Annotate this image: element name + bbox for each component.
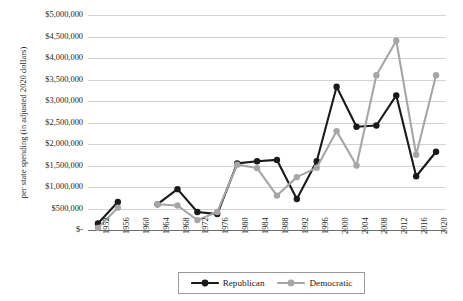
x-tick-label: 1972 — [201, 194, 210, 234]
legend-item-democratic[interactable]: Democratic — [277, 274, 352, 292]
x-tick-label: 1996 — [321, 194, 330, 234]
x-tick-label: 1952 — [102, 194, 111, 234]
legend-label: Democratic — [309, 278, 352, 288]
chart-legend: RepublicanDemocratic — [178, 272, 365, 294]
x-tick-label: 1960 — [142, 194, 151, 234]
x-tick-label: 1956 — [122, 194, 131, 234]
legend-marker-icon — [277, 274, 305, 292]
x-tick-label: 2016 — [420, 194, 429, 234]
x-tick-label: 2012 — [400, 194, 409, 234]
x-tick-label: 2000 — [341, 194, 350, 234]
x-tick-label: 1984 — [261, 194, 270, 234]
legend-marker-icon — [191, 274, 219, 292]
x-tick-label: 2020 — [440, 194, 449, 234]
x-tick-label: 1992 — [301, 194, 310, 234]
x-tick-label: 1976 — [221, 194, 230, 234]
x-tick-label: 2004 — [361, 194, 370, 234]
legend-label: Republican — [223, 278, 265, 288]
legend-item-republican[interactable]: Republican — [191, 274, 265, 292]
x-tick-label: 1964 — [162, 194, 171, 234]
x-tick-label: 1980 — [241, 194, 250, 234]
spending-line-chart: per state spending (in adjusted 2020 dol… — [0, 0, 463, 301]
x-tick-label: 1968 — [182, 194, 191, 234]
x-tick-label: 2008 — [380, 194, 389, 234]
x-tick-label: 1988 — [281, 194, 290, 234]
x-axis-tick-labels: 1952195619601964196819721976198019841988… — [0, 0, 463, 301]
